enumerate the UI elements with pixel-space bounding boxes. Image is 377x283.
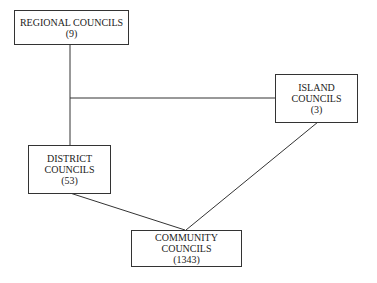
node-district-councils: DISTRICT COUNCILS (53): [28, 145, 111, 194]
node-label: COMMUNITY: [155, 232, 218, 243]
node-count: (53): [61, 175, 78, 186]
node-label: DISTRICT: [47, 153, 92, 164]
node-label: COUNCILS: [44, 164, 94, 175]
node-count: (3): [311, 104, 323, 115]
node-community-councils: COMMUNITY COUNCILS (1343): [131, 230, 242, 267]
node-label: REGIONAL COUNCILS: [20, 17, 123, 28]
node-count: (9): [66, 28, 78, 39]
node-island-councils: ISLAND COUNCILS (3): [275, 74, 358, 123]
node-label: COUNCILS: [161, 243, 211, 254]
edge-island-community: [186, 122, 318, 230]
node-label: COUNCILS: [291, 93, 341, 104]
node-count: (1343): [173, 254, 200, 265]
node-label: ISLAND: [298, 82, 335, 93]
edge-district-community: [70, 193, 185, 230]
node-regional-councils: REGIONAL COUNCILS (9): [14, 10, 129, 45]
